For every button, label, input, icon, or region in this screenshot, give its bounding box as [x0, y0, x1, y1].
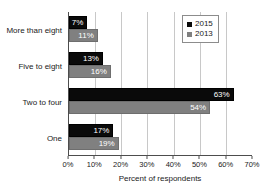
bar-2015-two-to-four: 63% [69, 88, 234, 101]
category-label-more-than-eight: More than eight [6, 12, 62, 48]
xtick-0: 0% [63, 156, 74, 169]
xtick-label: 30% [139, 160, 154, 169]
bar-value-label: 16% [91, 68, 107, 76]
bar-2015-one: 17% [69, 124, 113, 137]
tick-mark-icon [173, 156, 174, 159]
xtick-label: 40% [166, 160, 181, 169]
bar-chart: More than eight Five to eight Two to fou… [0, 0, 262, 192]
xtick-label: 20% [113, 160, 128, 169]
xtick-50: 50% [192, 156, 207, 169]
bar-group-one: 17% 19% [69, 120, 252, 156]
tick-mark-icon [94, 156, 95, 159]
chart-legend: 2015 2013 [182, 15, 219, 43]
bar-2013-five-to-eight: 16% [69, 65, 111, 78]
xtick-20: 20% [113, 156, 128, 169]
xtick-70: 70% [244, 156, 259, 169]
tick-mark-icon [68, 156, 69, 159]
category-label-one: One [47, 120, 62, 156]
legend-item-2013: 2013 [187, 29, 213, 39]
plot-area: 7% 11% 13% 16% 63% 54% [68, 12, 252, 156]
xtick-10: 10% [87, 156, 102, 169]
tick-mark-icon [225, 156, 226, 159]
bar-2013-two-to-four: 54% [69, 101, 210, 114]
bar-value-label: 11% [78, 32, 93, 40]
x-axis-title: Percent of respondents [68, 174, 252, 183]
legend-label-2013: 2013 [195, 30, 213, 38]
xtick-label: 50% [192, 160, 207, 169]
xtick-40: 40% [166, 156, 181, 169]
value-axis-ticks: 0% 10% 20% 30% 40% 50% 60% 70% [68, 156, 252, 170]
category-label-five-to-eight: Five to eight [18, 48, 62, 84]
bar-group-more-than-eight: 7% 11% [69, 12, 252, 48]
xtick-label: 60% [218, 160, 233, 169]
xtick-label: 0% [63, 160, 74, 169]
bar-value-label: 17% [93, 127, 109, 135]
xtick-30: 30% [139, 156, 154, 169]
tick-mark-icon [120, 156, 121, 159]
bar-2013-more-than-eight: 11% [69, 29, 98, 42]
xtick-label: 10% [87, 160, 102, 169]
legend-label-2015: 2015 [195, 20, 213, 28]
bar-2015-more-than-eight: 7% [69, 16, 87, 29]
bar-value-label: 7% [72, 19, 84, 27]
category-axis-labels: More than eight Five to eight Two to fou… [0, 12, 66, 156]
bar-value-label: 63% [214, 91, 230, 99]
tick-mark-icon [199, 156, 200, 159]
xtick-60: 60% [218, 156, 233, 169]
bar-group-two-to-four: 63% 54% [69, 84, 252, 120]
bar-rows: 7% 11% 13% 16% 63% 54% [69, 12, 252, 155]
bar-group-five-to-eight: 13% 16% [69, 48, 252, 84]
tick-mark-icon [146, 156, 147, 159]
bar-value-label: 19% [99, 140, 115, 148]
bar-value-label: 13% [83, 55, 99, 63]
legend-swatch-icon-2015 [187, 22, 192, 27]
bar-value-label: 54% [190, 104, 206, 112]
category-label-two-to-four: Two to four [22, 84, 62, 120]
legend-item-2015: 2015 [187, 19, 213, 29]
xtick-label: 70% [244, 160, 259, 169]
legend-swatch-icon-2013 [187, 32, 192, 37]
bar-2015-five-to-eight: 13% [69, 52, 103, 65]
tick-mark-icon [251, 156, 252, 159]
bar-2013-one: 19% [69, 137, 119, 150]
